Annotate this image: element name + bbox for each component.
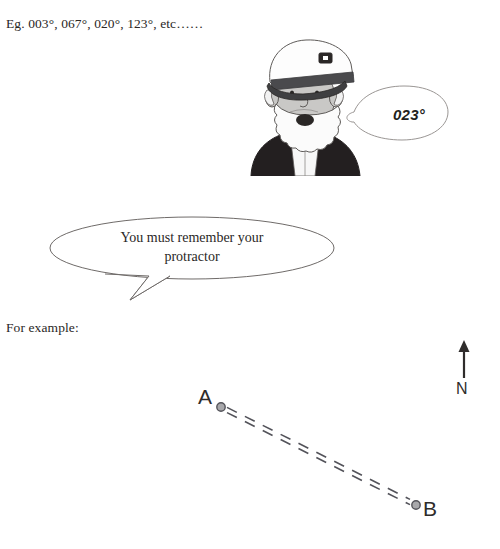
protractor-speech-bubble (44, 212, 340, 304)
captain-mouth (296, 114, 314, 126)
north-label: N (456, 381, 468, 397)
point-marker-b (412, 501, 420, 509)
worksheet-page: Eg. 003°, 067°, 020°, 123°, etc…… (0, 0, 500, 549)
north-arrow-icon (459, 340, 470, 378)
bearing-line-a-to-b (227, 407, 410, 504)
point-marker-a (217, 403, 225, 411)
point-label-b: B (423, 498, 437, 519)
point-label-a: A (198, 386, 212, 407)
bearing-examples-text: Eg. 003°, 067°, 020°, 123°, etc…… (6, 16, 203, 32)
bearing-speech-bubble (342, 78, 454, 150)
